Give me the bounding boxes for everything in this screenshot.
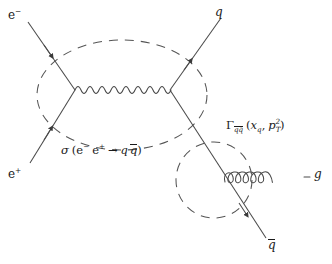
- gamma-close-paren: ): [280, 118, 285, 132]
- label-electron-in: e−: [8, 8, 21, 21]
- label-gluon-out: g: [314, 168, 322, 180]
- feynman-diagram-figure: e− e+ q q g σ(e−e+→qq) Γqq̄(xq,pT2): [0, 0, 332, 264]
- positron-in-charge: +: [15, 166, 21, 175]
- sigma-final-1: q: [121, 143, 128, 157]
- photon-propagator: [75, 87, 171, 94]
- label-quark-out: q: [215, 6, 223, 18]
- gamma-symbol: Γ: [226, 118, 234, 132]
- sigma-final-2: q: [130, 145, 137, 157]
- sigma-initial-2: e: [92, 143, 99, 157]
- sigma-symbol: σ: [61, 143, 69, 157]
- sigma-arrow-icon: →: [108, 143, 118, 157]
- positron-in-arrow-icon: [44, 127, 52, 140]
- label-positron-in: e+: [8, 167, 21, 180]
- quark-out-symbol: q: [215, 5, 223, 19]
- gluon-propagator: [225, 172, 273, 183]
- label-fragmentation-function: Γqq̄(xq,pT2): [226, 118, 285, 133]
- sigma-initial-2-charge: +: [99, 142, 105, 151]
- antiquark-out-line: [170, 90, 266, 238]
- electron-in-charge: −: [15, 7, 21, 16]
- antiquark-out-symbol: q: [268, 239, 276, 251]
- gamma-comma: ,: [262, 118, 266, 132]
- sigma-close-paren: ): [137, 143, 142, 157]
- gamma-subscript: qq̄: [234, 126, 243, 133]
- quark-out-arrow-icon: [184, 60, 192, 71]
- label-cross-section: σ(e−e+→qq): [61, 143, 142, 156]
- sigma-initial-1-charge: −: [83, 142, 89, 151]
- gluon-out-symbol: g: [314, 167, 322, 181]
- hard-scattering-blob: [37, 40, 207, 150]
- electron-in-arrow-icon: [44, 45, 53, 57]
- antiquark-out-arrow-icon: [239, 203, 248, 216]
- label-antiquark-out: q: [268, 239, 276, 251]
